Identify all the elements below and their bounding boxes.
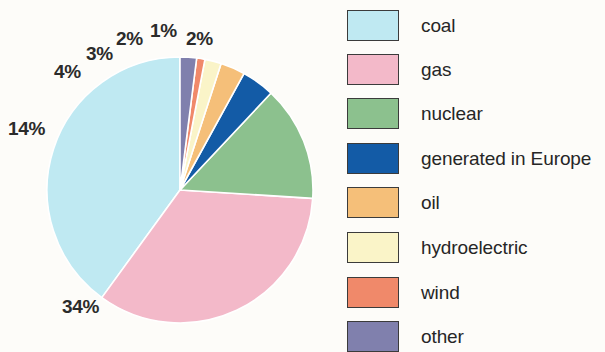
legend-item-label: nuclear (421, 104, 483, 123)
pie-percent-label: 2% (186, 29, 213, 48)
legend-item-oil[interactable]: oil (347, 186, 440, 218)
legend-item-label: hydroelectric (421, 238, 527, 257)
legend-swatch-icon (347, 321, 399, 352)
legend-item-label: coal (421, 16, 455, 35)
pie-percent-label: 1% (150, 21, 177, 40)
pie-percent-label: 34% (62, 297, 99, 316)
legend-item-label: other (421, 327, 464, 346)
legend-swatch-icon (347, 98, 399, 129)
legend-item-other[interactable]: other (347, 320, 464, 352)
legend-swatch-icon (347, 187, 399, 218)
legend-item-hydroelectric[interactable]: hydroelectric (347, 231, 527, 263)
legend-item-coal[interactable]: coal (347, 9, 455, 41)
pie-percent-label: 14% (8, 119, 45, 138)
pie-chart-plot-area: 34%14%4%3%2%1%2% (0, 0, 340, 348)
legend-swatch-icon (347, 143, 399, 174)
legend-swatch-icon (347, 54, 399, 85)
legend-item-label: gas (421, 60, 451, 79)
pie-percent-label: 4% (54, 62, 81, 81)
legend-swatch-icon (347, 10, 399, 41)
legend-item-label: generated in Europe (421, 149, 591, 168)
legend-item-nuclear[interactable]: nuclear (347, 97, 483, 129)
pie-percent-label: 2% (116, 29, 143, 48)
legend-item-wind[interactable]: wind (347, 276, 460, 308)
pie-percent-label: 3% (86, 44, 113, 63)
pie-chart-svg (0, 0, 340, 348)
chart-legend: coalgasnucleargenerated in Europeoilhydr… (347, 0, 605, 348)
legend-item-label: oil (421, 193, 440, 212)
legend-item-generated-in-Europe[interactable]: generated in Europe (347, 142, 591, 174)
pie-slices-group (47, 57, 313, 323)
legend-item-gas[interactable]: gas (347, 53, 451, 85)
legend-swatch-icon (347, 277, 399, 308)
legend-item-label: wind (421, 283, 460, 302)
legend-swatch-icon (347, 232, 399, 263)
